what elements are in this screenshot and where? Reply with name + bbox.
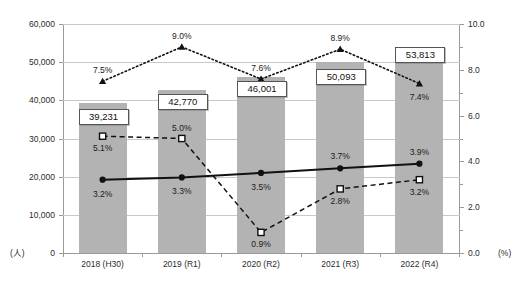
left-axis-tick-label: 30,000 (0, 135, 55, 144)
square-series-point-label: 0.9% (231, 240, 291, 249)
x-axis-category-label: 2020 (R2) (221, 260, 300, 269)
right-axis-minor-tick-mark (460, 184, 463, 185)
right-axis-tick-mark (460, 207, 464, 208)
right-axis-tick-mark (460, 253, 464, 254)
x-axis-category-label: 2019 (R1) (142, 260, 221, 269)
x-axis-tick-mark (63, 253, 64, 257)
x-axis-category-label: 2022 (R4) (380, 260, 459, 269)
right-axis-minor-tick-mark (460, 93, 463, 94)
x-axis-tick-mark (301, 253, 302, 257)
bar-value-label: 53,813 (395, 47, 445, 63)
triangle-series-point-label: 7.5% (73, 66, 133, 75)
left-axis-unit-label: (人) (10, 249, 25, 258)
bar-value-label: 46,001 (237, 81, 287, 97)
circle-series-point-label: 3.9% (389, 148, 449, 157)
circle-series-point-label: 3.7% (310, 152, 370, 161)
x-axis-tick-mark (380, 253, 381, 257)
left-axis-tick-label: 40,000 (0, 96, 55, 105)
left-axis-tick-label: 60,000 (0, 20, 55, 29)
x-axis-category-label: 2018 (H30) (63, 260, 142, 269)
circle-series-point-label: 3.2% (73, 190, 133, 199)
right-axis-tick-mark (460, 24, 464, 25)
x-axis-tick-mark (459, 253, 460, 257)
bar-value-label: 39,231 (79, 109, 129, 125)
chart-container: 010,00020,00030,00040,00050,00060,000 (人… (0, 0, 529, 285)
square-series-point-label: 2.8% (310, 197, 370, 206)
x-axis-line (63, 253, 460, 254)
right-axis-tick-label: 8.0 (468, 66, 480, 75)
bar-value-label: 42,770 (158, 94, 208, 110)
left-axis-tick-label: 0 (0, 249, 55, 258)
right-axis-tick-mark (460, 161, 464, 162)
square-series-point-label: 3.2% (389, 188, 449, 197)
left-axis-tick-label: 10,000 (0, 211, 55, 220)
x-axis-category-label: 2021 (R3) (301, 260, 380, 269)
triangle-series-point-label: 8.9% (310, 34, 370, 43)
left-axis-tick-label: 20,000 (0, 173, 55, 182)
circle-series-point-label: 3.3% (152, 187, 212, 196)
x-axis-tick-mark (221, 253, 222, 257)
right-axis-minor-tick-mark (460, 230, 463, 231)
left-axis-tick-label: 50,000 (0, 58, 55, 67)
right-axis-unit-label: (%) (498, 249, 511, 258)
right-axis-tick-label: 0.0 (468, 249, 480, 258)
triangle-series-point-label: 9.0% (152, 32, 212, 41)
right-axis-tick-mark (460, 116, 464, 117)
right-axis-tick-label: 10.0 (468, 20, 485, 29)
bar-value-label: 50,093 (316, 69, 366, 85)
right-axis-tick-label: 6.0 (468, 112, 480, 121)
bar (79, 103, 127, 253)
bar (158, 90, 206, 253)
circle-series-point-label: 3.5% (231, 183, 291, 192)
right-axis-tick-label: 4.0 (468, 157, 480, 166)
bar (237, 77, 285, 253)
right-axis-tick-label: 2.0 (468, 203, 480, 212)
right-axis-tick-mark (460, 70, 464, 71)
triangle-series-point-label: 7.6% (231, 64, 291, 73)
triangle-series-point-label: 7.4% (389, 93, 449, 102)
square-series-point-label: 5.1% (73, 144, 133, 153)
right-axis-minor-tick-mark (460, 47, 463, 48)
right-axis-minor-tick-mark (460, 139, 463, 140)
square-series-point-label: 5.0% (152, 124, 212, 133)
x-axis-tick-mark (142, 253, 143, 257)
